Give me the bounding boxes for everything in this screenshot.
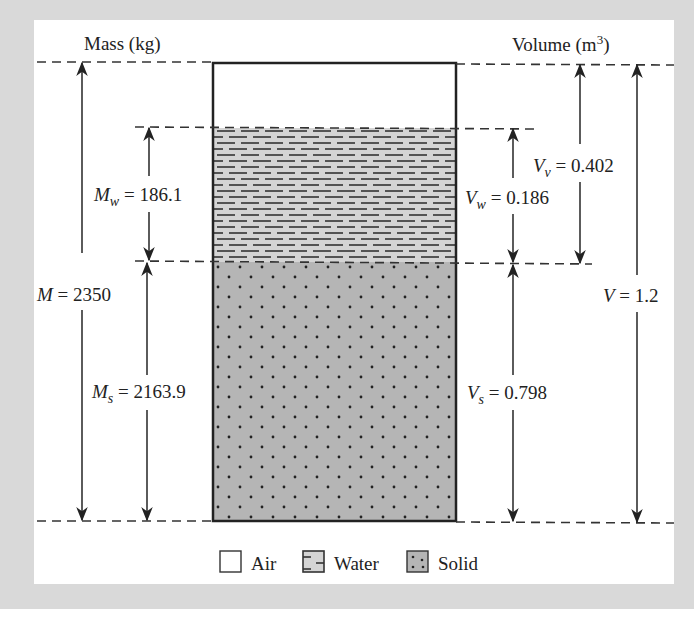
top-boundary-right: [456, 64, 674, 65]
legend-solid-label: Solid: [438, 553, 479, 574]
legend: Air Water Solid: [220, 551, 479, 574]
Vv-label: Vv = 0.402: [533, 155, 614, 180]
legend-air-swatch: [220, 551, 241, 572]
Vs-label: Vs = 0.798: [467, 382, 547, 407]
phase-diagram: Mass (kg) Volume (m3) M = 2350 Mw = 186.…: [0, 0, 694, 620]
mass-axis-title: Mass (kg): [84, 33, 161, 55]
legend-air-label: Air: [251, 553, 277, 574]
legend-solid-swatch: [407, 551, 428, 572]
air-phase: [213, 63, 456, 128]
air-water-boundary: [135, 127, 540, 129]
Vw-label: Vw = 0.186: [465, 187, 549, 212]
solid-phase: [213, 262, 456, 521]
legend-water-swatch: [303, 551, 324, 572]
V-total-label: V = 1.2: [603, 285, 659, 306]
bottom-boundary-right: [456, 522, 674, 523]
water-phase: [213, 128, 456, 262]
Mw-label: Mw = 186.1: [93, 184, 182, 209]
volume-axis-title: Volume (m3): [512, 32, 609, 56]
M-total-label: M = 2350: [36, 284, 111, 305]
Ms-label: Ms = 2163.9: [91, 381, 186, 406]
legend-water-label: Water: [334, 553, 380, 574]
